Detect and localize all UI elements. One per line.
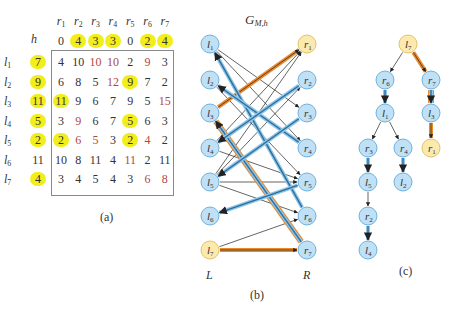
caption-c: (c) <box>399 264 412 279</box>
node-r7: r7 <box>422 71 440 89</box>
node-r2: r2 <box>298 71 316 89</box>
node-l4: l4 <box>201 139 219 157</box>
node-r6: r6 <box>376 71 394 89</box>
node-l2: l2 <box>201 71 219 89</box>
node-l7: l7 <box>201 241 219 259</box>
node-l1: l1 <box>376 104 394 122</box>
node-r1: r1 <box>298 35 316 53</box>
node-l6: l6 <box>201 207 219 225</box>
graph-title: GM,h <box>245 12 268 28</box>
node-r5: r5 <box>298 173 316 191</box>
tree-edge <box>390 52 402 71</box>
node-l1: l1 <box>201 35 219 53</box>
node-l3: l3 <box>201 104 219 122</box>
node-r3: r3 <box>359 139 377 157</box>
tree-edge <box>413 52 425 71</box>
node-r6: r6 <box>298 207 316 225</box>
graph-canvas: l1l2l3l4l5l6l7r1r2r3r4r5r6r7 l7r6r7l1l3r… <box>0 0 459 309</box>
node-l5: l5 <box>359 173 377 191</box>
node-l2: l2 <box>394 173 412 191</box>
node-r4: r4 <box>394 139 412 157</box>
node-l7: l7 <box>399 35 417 53</box>
node-r2: r2 <box>359 207 377 225</box>
right-set-label: R <box>303 268 310 283</box>
left-set-label: L <box>206 268 213 283</box>
node-l3: l3 <box>422 104 440 122</box>
tree-edge <box>390 122 399 139</box>
node-l4: l4 <box>359 241 377 259</box>
node-l5: l5 <box>201 173 219 191</box>
node-r3: r3 <box>298 104 316 122</box>
node-r4: r4 <box>298 139 316 157</box>
tree-edge <box>372 122 380 139</box>
caption-b: (b) <box>250 288 264 303</box>
node-r7: r7 <box>298 241 316 259</box>
node-r1: r1 <box>422 139 440 157</box>
